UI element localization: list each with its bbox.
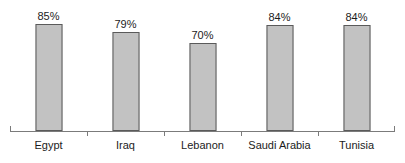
category-label-tunisia: Tunisia xyxy=(318,138,395,152)
bar-iraq[interactable] xyxy=(112,32,139,131)
bar-group-tunisia[interactable]: 84% xyxy=(318,8,395,131)
x-axis-endcap-right xyxy=(394,126,395,132)
bar-chart: 85% 79% 70% 84% 84% Egypt Iraq Lebanon S… xyxy=(0,0,405,163)
bar-lebanon[interactable] xyxy=(189,43,216,131)
bar-group-saudi-arabia[interactable]: 84% xyxy=(241,8,318,131)
bar-value-label: 79% xyxy=(87,18,164,31)
x-axis-tick xyxy=(318,131,319,136)
bar-group-lebanon[interactable]: 70% xyxy=(164,8,241,131)
bar-value-label: 84% xyxy=(241,11,318,24)
plot-area: 85% 79% 70% 84% 84% xyxy=(10,8,395,131)
bar-value-label: 70% xyxy=(164,29,241,42)
x-axis-tick xyxy=(241,131,242,136)
bar-group-iraq[interactable]: 79% xyxy=(87,8,164,131)
bar-tunisia[interactable] xyxy=(343,25,370,131)
bar-saudi-arabia[interactable] xyxy=(266,25,293,131)
bar-value-label: 85% xyxy=(10,10,87,23)
x-axis-endcap-left xyxy=(10,126,11,132)
x-axis-category-labels: Egypt Iraq Lebanon Saudi Arabia Tunisia xyxy=(10,138,395,156)
x-axis-tick xyxy=(87,131,88,136)
category-label-iraq: Iraq xyxy=(87,138,164,152)
x-axis-line xyxy=(10,131,395,132)
category-label-egypt: Egypt xyxy=(10,138,87,152)
bar-value-label: 84% xyxy=(318,11,395,24)
x-axis-tick xyxy=(164,131,165,136)
category-label-lebanon: Lebanon xyxy=(164,138,241,152)
category-label-saudi-arabia: Saudi Arabia xyxy=(241,138,318,152)
bar-group-egypt[interactable]: 85% xyxy=(10,8,87,131)
bar-egypt[interactable] xyxy=(35,24,62,131)
